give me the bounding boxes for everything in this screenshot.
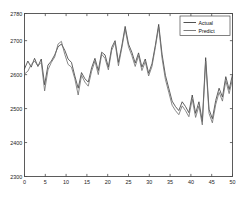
y-tick-label: 2780	[10, 11, 22, 17]
x-tick-label: 15	[84, 179, 90, 185]
x-tick-label: 35	[167, 179, 173, 185]
x-tick-label: 5	[44, 179, 47, 185]
chart-legend: ActualPredict	[180, 16, 230, 36]
x-tick-label: 30	[146, 179, 152, 185]
y-tick-label: 2400	[10, 140, 22, 146]
x-tick-label: 25	[126, 179, 132, 185]
plot-border	[25, 14, 233, 177]
y-tick-label: 2300	[10, 174, 22, 180]
line-chart-canvas: 230024002500260027002780 051015202530354…	[0, 0, 246, 198]
series-line-actual	[25, 24, 233, 121]
x-tick-label: 40	[188, 179, 194, 185]
legend-label-actual: Actual	[199, 20, 213, 26]
x-tick-label: 20	[105, 179, 111, 185]
legend-label-predict: Predict	[199, 28, 216, 34]
x-tick-label: 50	[230, 179, 236, 185]
y-tick-label: 2500	[10, 106, 22, 112]
data-series-group	[25, 24, 233, 125]
x-tick-label: 45	[209, 179, 215, 185]
axes-frame	[25, 14, 233, 177]
x-tick-label: 10	[63, 179, 69, 185]
series-line-predict	[25, 27, 233, 125]
x-tick-label: 0	[23, 179, 26, 185]
chart-figure: 230024002500260027002780 051015202530354…	[0, 0, 246, 198]
y-tick-label: 2700	[10, 38, 22, 44]
y-tick-label: 2600	[10, 72, 22, 78]
